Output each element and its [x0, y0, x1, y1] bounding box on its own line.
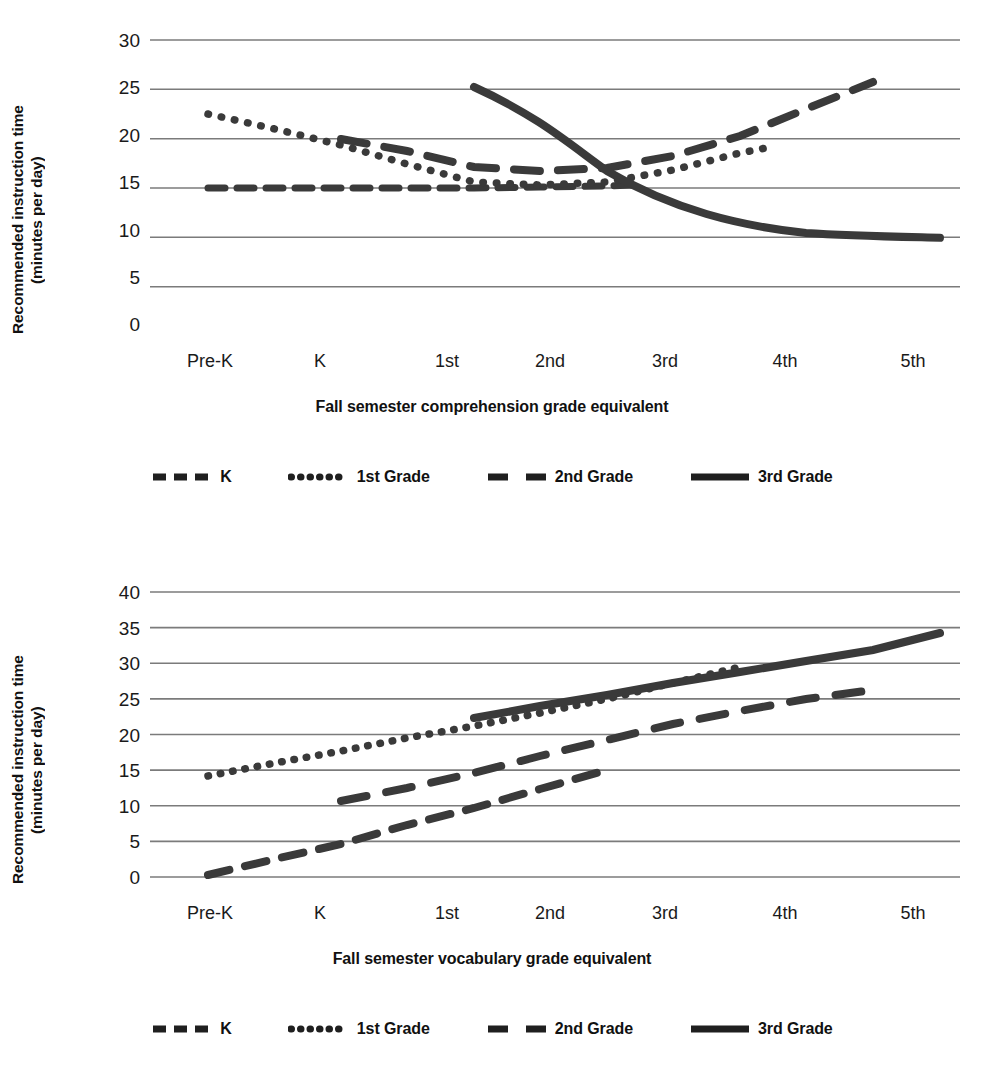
- y-axis-title-comprehension: Recommended instruction time (minutes pe…: [8, 90, 50, 350]
- legend-label-k: K: [220, 468, 231, 486]
- legend-item-1st-grade[interactable]: 1st Grade: [288, 468, 430, 486]
- x-tick-2nd: 2nd: [505, 352, 595, 370]
- legend-item-3rd-grade[interactable]: 3rd Grade: [689, 468, 833, 486]
- legend-item-3rd-grade-v[interactable]: 3rd Grade: [689, 1020, 833, 1038]
- legend-label-3rd-grade-v: 3rd Grade: [758, 1020, 833, 1038]
- legend-label-2nd-grade: 2nd Grade: [555, 468, 633, 486]
- figure-page: Recommended instruction time (minutes pe…: [0, 0, 984, 1074]
- legend-label-k-v: K: [220, 1020, 231, 1038]
- legend-swatch-dotted: [288, 471, 350, 483]
- y-tick-15: 15: [102, 173, 140, 192]
- legend-swatch-long-dash-v: [486, 1023, 548, 1035]
- y-tick-15-v: 15: [102, 761, 140, 780]
- y-tick-30-v: 30: [102, 654, 140, 673]
- comprehension-plot-area: [150, 30, 960, 330]
- legend-label-3rd-grade: 3rd Grade: [758, 468, 833, 486]
- x-axis-title-vocabulary: Fall semester vocabulary grade equivalen…: [0, 950, 984, 968]
- y-tick-5: 5: [102, 268, 140, 287]
- legend-item-k-v[interactable]: K: [151, 1020, 231, 1038]
- vocabulary-chart-block: Recommended instruction time (minutes pe…: [0, 540, 984, 1074]
- legend-item-2nd-grade-v[interactable]: 2nd Grade: [486, 1020, 633, 1038]
- x-tick-3rd: 3rd: [620, 352, 710, 370]
- x-tick-k: K: [275, 352, 365, 370]
- series-2nd-grade-line-v: [341, 690, 873, 801]
- x-tick-5th-v: 5th: [868, 904, 958, 922]
- gridlines-v: [150, 592, 960, 877]
- y-tick-10: 10: [102, 221, 140, 240]
- y-tick-20: 20: [102, 126, 140, 145]
- vocabulary-legend: K 1st Grade 2nd Grade 3rd Grade: [0, 1020, 984, 1038]
- legend-swatch-short-dash: [151, 471, 213, 483]
- x-tick-1st-v: 1st: [402, 904, 492, 922]
- vocabulary-plot-area: [150, 582, 960, 882]
- x-tick-pre-k: Pre-K: [160, 352, 260, 370]
- x-tick-k-v: K: [275, 904, 365, 922]
- x-tick-3rd-v: 3rd: [620, 904, 710, 922]
- x-tick-4th: 4th: [740, 352, 830, 370]
- comprehension-legend: K 1st Grade 2nd Grade 3rd Grade: [0, 468, 984, 486]
- legend-swatch-short-dash-v: [151, 1023, 213, 1035]
- legend-swatch-solid-v: [689, 1023, 751, 1035]
- y-axis-title-line1: Recommended instruction time: [9, 106, 26, 335]
- legend-swatch-solid: [689, 471, 751, 483]
- x-tick-pre-k-v: Pre-K: [160, 904, 260, 922]
- vocabulary-plot-svg: [150, 582, 960, 882]
- series-2nd-grade-line: [341, 82, 873, 171]
- legend-item-1st-grade-v[interactable]: 1st Grade: [288, 1020, 430, 1038]
- series-3rd-grade-line-v: [474, 633, 940, 718]
- x-tick-1st: 1st: [402, 352, 492, 370]
- legend-item-2nd-grade[interactable]: 2nd Grade: [486, 468, 633, 486]
- y-tick-25-v: 25: [102, 690, 140, 709]
- x-tick-2nd-v: 2nd: [505, 904, 595, 922]
- legend-swatch-long-dash: [486, 471, 548, 483]
- y-axis-title-line2-v: (minutes per day): [27, 640, 46, 900]
- y-tick-20-v: 20: [102, 726, 140, 745]
- y-tick-5-v: 5: [102, 832, 140, 851]
- legend-item-k[interactable]: K: [151, 468, 231, 486]
- y-tick-0: 0: [102, 315, 140, 334]
- y-axis-title-line2: (minutes per day): [27, 90, 46, 350]
- comprehension-chart-block: Recommended instruction time (minutes pe…: [0, 0, 984, 520]
- legend-label-2nd-grade-v: 2nd Grade: [555, 1020, 633, 1038]
- legend-swatch-dotted-v: [288, 1023, 350, 1035]
- y-axis-title-vocabulary: Recommended instruction time (minutes pe…: [8, 640, 50, 900]
- y-tick-40-v: 40: [102, 583, 140, 602]
- x-axis-title-comprehension: Fall semester comprehension grade equiva…: [0, 398, 984, 416]
- y-tick-25: 25: [102, 78, 140, 97]
- y-tick-30: 30: [102, 31, 140, 50]
- y-tick-35-v: 35: [102, 619, 140, 638]
- series-1st-grade-line: [208, 114, 766, 185]
- y-tick-0-v: 0: [102, 868, 140, 887]
- y-tick-10-v: 10: [102, 797, 140, 816]
- x-tick-5th: 5th: [868, 352, 958, 370]
- series-k-line: [208, 185, 633, 188]
- legend-label-1st-grade-v: 1st Grade: [357, 1020, 430, 1038]
- comprehension-plot-svg: [150, 30, 960, 330]
- y-axis-title-line1-v: Recommended instruction time: [9, 656, 26, 885]
- legend-label-1st-grade: 1st Grade: [357, 468, 430, 486]
- x-tick-4th-v: 4th: [740, 904, 830, 922]
